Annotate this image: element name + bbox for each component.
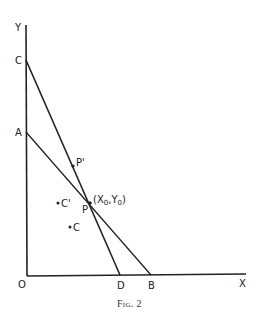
- x-axis-label: X: [239, 278, 246, 289]
- label-b: B: [148, 280, 155, 291]
- label-a: A: [15, 127, 22, 138]
- point-p: [88, 201, 92, 205]
- figure-canvas: Y X O C A D B P' P C' C (X0,Y0) Fig. 2: [0, 0, 259, 325]
- point-p-prime: [71, 164, 74, 167]
- label-c: C: [15, 55, 22, 66]
- label-d: D: [117, 280, 125, 291]
- point-c-prime: [57, 202, 60, 205]
- x-axis: [27, 274, 246, 276]
- point-c-lower: [69, 226, 72, 229]
- figure-caption: Fig. 2: [117, 298, 142, 309]
- label-p-prime: P': [76, 157, 85, 168]
- y-axis-label: Y: [14, 22, 22, 33]
- label-p-coordinates: (X0,Y0): [93, 194, 126, 207]
- origin-label: O: [18, 279, 26, 290]
- label-c-prime: C': [61, 198, 71, 209]
- label-c-lower: C: [73, 222, 80, 233]
- label-p: P: [82, 204, 88, 215]
